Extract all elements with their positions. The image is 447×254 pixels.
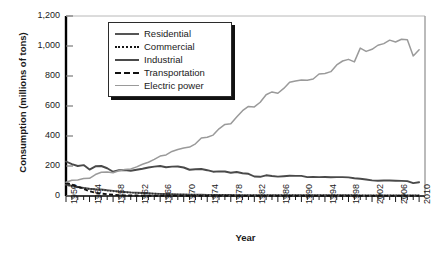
x-axis-tick-label: 2010 xyxy=(423,184,432,204)
x-axis-tick-label: 1958 xyxy=(117,184,126,204)
legend-item-transportation: Transportation xyxy=(114,66,226,79)
legend-item-industrial: Industrial xyxy=(114,53,226,66)
x-axis-tick-label: 1998 xyxy=(352,184,361,204)
legend-item-commercial: Commercial xyxy=(114,40,226,53)
solid-dark-line-icon xyxy=(114,28,140,40)
legend-item-residential: Residential xyxy=(114,27,226,40)
x-axis-tick-label: 1962 xyxy=(141,184,150,204)
legend-item-label: Commercial xyxy=(144,41,195,53)
solid-gray-line-icon xyxy=(114,80,140,92)
x-axis-tick-label: 1954 xyxy=(94,184,103,204)
x-axis-tick-label: 1966 xyxy=(164,184,173,204)
chart-figure: Consumption (millions of tons) 020040060… xyxy=(0,0,447,254)
legend-item-label: Residential xyxy=(144,28,191,40)
dotted-line-icon xyxy=(114,41,140,53)
legend-item-electric-power: Electric power xyxy=(114,79,226,92)
x-axis-tick-label: 2006 xyxy=(400,184,409,204)
legend-item-label: Electric power xyxy=(144,80,204,92)
x-axis-tick-label: 1970 xyxy=(188,184,197,204)
legend-item-label: Transportation xyxy=(144,67,205,79)
solid-line-icon xyxy=(114,54,140,66)
legend-item-label: Industrial xyxy=(144,54,183,66)
x-axis-tick-label: 2002 xyxy=(376,184,385,204)
x-axis-tick-label: 1994 xyxy=(329,184,338,204)
x-axis-tick-label: 1982 xyxy=(258,184,267,204)
x-axis-tick-label: 1978 xyxy=(235,184,244,204)
dashed-line-icon xyxy=(114,67,140,79)
x-axis-tick-label: 1986 xyxy=(282,184,291,204)
chart-legend: Residential Commercial Industrial Transp… xyxy=(108,22,232,97)
x-axis-tick-label: 1950 xyxy=(70,184,79,204)
x-axis-tick-label: 1990 xyxy=(305,184,314,204)
x-axis-title: Year xyxy=(66,232,425,243)
x-axis-tick-label: 1974 xyxy=(211,184,220,204)
